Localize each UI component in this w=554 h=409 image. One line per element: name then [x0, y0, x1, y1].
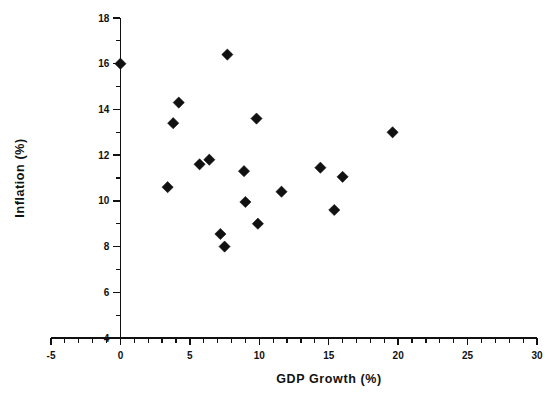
- scatter-plot: 4681012141618 -5051015202530 GDP Growth …: [0, 0, 554, 409]
- data-point-marker: [222, 49, 233, 60]
- data-point-marker: [276, 186, 287, 197]
- data-point-marker: [173, 97, 184, 108]
- x-axis: -5051015202530: [47, 338, 543, 361]
- y-tick-label: 14: [98, 104, 110, 115]
- x-tick-label: 20: [393, 350, 405, 361]
- y-tick-label: 18: [98, 13, 110, 24]
- data-point-marker: [252, 218, 263, 229]
- data-points: [115, 49, 398, 252]
- x-axis-title: GDP Growth (%): [276, 372, 381, 386]
- x-tick-label: 15: [323, 350, 335, 361]
- data-point-marker: [315, 162, 326, 173]
- data-point-marker: [204, 154, 215, 165]
- chart-page: 4681012141618 -5051015202530 GDP Growth …: [0, 0, 554, 409]
- data-point-marker: [337, 171, 348, 182]
- data-point-marker: [238, 166, 249, 177]
- data-point-marker: [219, 241, 230, 252]
- y-tick-label: 12: [98, 150, 110, 161]
- data-point-marker: [387, 127, 398, 138]
- x-tick-label: 0: [118, 350, 124, 361]
- data-point-marker: [240, 196, 251, 207]
- data-point-marker: [194, 159, 205, 170]
- data-point-marker: [329, 204, 340, 215]
- y-tick-label: 10: [98, 195, 110, 206]
- y-tick-label: 16: [98, 58, 110, 69]
- x-tick-label: 10: [254, 350, 266, 361]
- data-point-marker: [162, 182, 173, 193]
- x-tick-label: -5: [47, 350, 56, 361]
- x-tick-label: 25: [462, 350, 474, 361]
- y-tick-label: 6: [104, 287, 110, 298]
- data-point-marker: [215, 228, 226, 239]
- x-tick-label: 30: [531, 350, 543, 361]
- data-point-marker: [251, 113, 262, 124]
- y-axis-title: Inflation (%): [13, 138, 27, 217]
- data-point-marker: [115, 58, 126, 69]
- x-tick-label: 5: [187, 350, 193, 361]
- data-point-marker: [168, 118, 179, 129]
- y-tick-label: 8: [104, 241, 110, 252]
